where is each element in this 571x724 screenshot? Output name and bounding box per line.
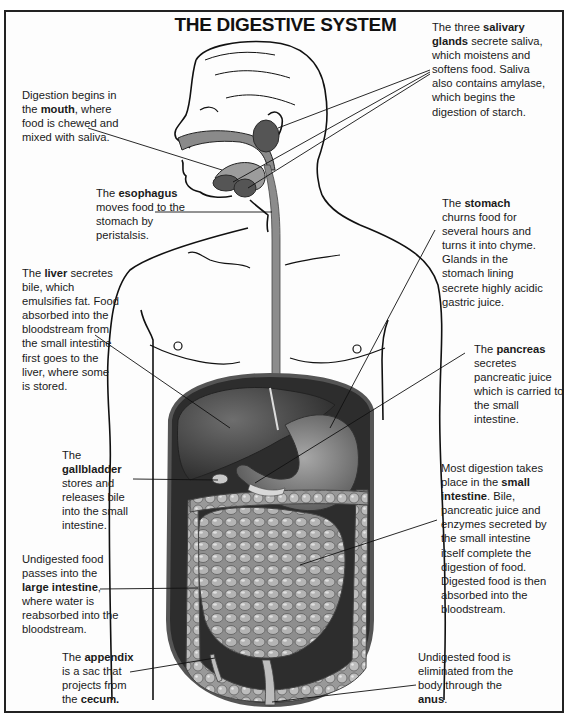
label-pancreas: The pancreas secretes pancreatic juice w… (474, 342, 564, 427)
label-text: stores and releases bile into the small … (62, 477, 128, 531)
label-term: gallbladder (62, 463, 122, 475)
label-appendix: The appendix is a sac that projects from… (62, 650, 144, 706)
label-text: churns food for several hours and turns … (442, 211, 543, 308)
label-anus: Undigested food is eliminated from the b… (418, 650, 518, 706)
label-text: . Bile, pancreatic juice and enzymes sec… (441, 490, 547, 615)
label-term: liver (44, 267, 67, 279)
label-text: Undigested food passes into the (22, 553, 103, 579)
label-term: cecum. (81, 693, 120, 705)
label-text: secretes bile, which emulsifies fat. Foo… (22, 267, 119, 392)
label-text: secrete saliva, which moistens and softe… (432, 35, 545, 117)
label-text: The (474, 343, 496, 355)
esophagus (264, 165, 280, 380)
label-liver: The liver secretes bile, which emulsifie… (22, 266, 120, 393)
label-term: anus (418, 693, 444, 705)
label-text: The three (432, 21, 483, 33)
gallbladder (212, 474, 228, 484)
label-salivary-glands: The three salivary glands secrete saliva… (432, 20, 547, 119)
label-text: The (442, 197, 464, 209)
label-text: Undigested food is eliminated from the b… (418, 651, 513, 691)
label-mouth: Digestion begins in the mouth, where foo… (22, 88, 132, 144)
label-gallbladder: The gallbladder stores and releases bile… (62, 448, 142, 533)
label-text: The (62, 651, 84, 663)
label-term: esophagus (118, 187, 177, 199)
label-large-intestine: Undigested food passes into the large in… (22, 552, 122, 637)
label-text: The (62, 449, 81, 461)
label-text: . (444, 693, 447, 705)
label-text: moves food to the stomach by peristalsis… (96, 201, 185, 241)
label-term: pancreas (496, 343, 545, 355)
label-text: The (22, 267, 44, 279)
label-esophagus: The esophagus moves food to the stomach … (96, 186, 196, 242)
label-term: mouth (41, 103, 75, 115)
label-text: The (96, 187, 118, 199)
label-small-intestine: Most digestion takes place in the small … (441, 461, 549, 616)
label-text: secretes pancreatic juice which is carri… (474, 357, 564, 425)
label-term: large intestine (22, 581, 98, 593)
label-stomach: The stomach churns food for several hour… (442, 196, 547, 309)
label-term: stomach (464, 197, 510, 209)
label-term: appendix (84, 651, 133, 663)
